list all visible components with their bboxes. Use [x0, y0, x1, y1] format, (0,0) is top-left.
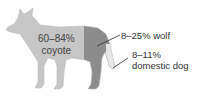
- dog-label: 8–11% domestic dog: [132, 49, 189, 71]
- dog-leader-line: [113, 58, 128, 68]
- wolf-label: 8–25% wolf: [121, 30, 170, 41]
- dog-percent: 8–11%: [132, 49, 189, 60]
- coyote-percent: 60–84%: [38, 33, 75, 45]
- coyote-name: coyote: [38, 45, 75, 57]
- coyote-label: 60–84% coyote: [38, 33, 75, 57]
- dog-name: domestic dog: [132, 60, 189, 71]
